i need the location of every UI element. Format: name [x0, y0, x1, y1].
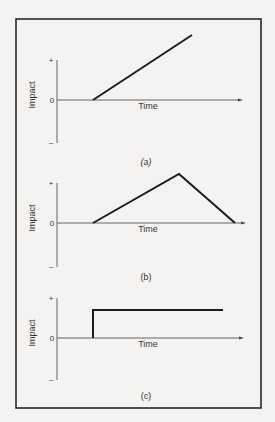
panel-caption: (b)	[141, 272, 152, 282]
tick-zero: 0	[50, 96, 55, 105]
tick-minus: –	[49, 262, 54, 271]
y-axis-label: Impact	[27, 81, 37, 109]
tick-plus: +	[49, 179, 54, 188]
tick-plus: +	[49, 294, 54, 303]
tick-plus: +	[49, 56, 54, 65]
x-axis-label: Time	[138, 339, 158, 349]
impact-curve	[93, 35, 192, 100]
panel-caption: (c)	[141, 391, 152, 401]
panel-caption: (a)	[141, 157, 152, 167]
panel-c: + 0 – Impact Time (c)	[27, 294, 244, 401]
y-axis-label: Impact	[27, 319, 37, 347]
x-axis-arrow-icon	[239, 336, 244, 339]
y-axis-label: Impact	[27, 204, 37, 232]
tick-minus: –	[49, 375, 54, 384]
tick-zero: 0	[50, 219, 55, 228]
x-axis-arrow-icon	[238, 98, 243, 101]
panel-b: + 0 – Impact Time (b)	[27, 174, 246, 282]
impact-curve	[93, 174, 235, 223]
x-axis-label: Time	[138, 224, 158, 234]
panel-a: + 0 – Impact Time (a)	[27, 35, 243, 167]
figure: + 0 – Impact Time (a) + 0 – Impact Time …	[0, 0, 275, 422]
x-axis-label: Time	[138, 101, 158, 111]
x-axis-arrow-icon	[241, 221, 246, 224]
tick-minus: –	[49, 138, 54, 147]
impact-curve	[93, 310, 223, 338]
tick-zero: 0	[50, 334, 55, 343]
